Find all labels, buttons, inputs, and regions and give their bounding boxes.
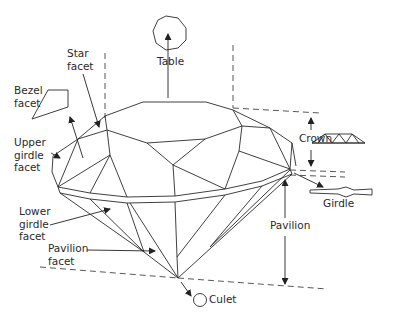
table-octagon-icon [153, 16, 186, 50]
culet-circle-icon [194, 294, 207, 307]
girdle-profile-icon [310, 187, 372, 197]
label-star-facet: Star facet [67, 47, 93, 72]
label-crown: Crown [299, 132, 332, 145]
label-upper-girdle-facet: Upper girdle facet [14, 136, 46, 174]
label-girdle: Girdle [323, 197, 354, 210]
diamond-anatomy-diagram: Star facet Table Bezel facet Upper girdl… [0, 0, 412, 322]
diagram-canvas [0, 0, 412, 322]
diamond-drawing [52, 102, 296, 278]
label-bezel-facet: Bezel facet [14, 84, 43, 109]
label-pavilion-facet: Pavilion facet [48, 242, 88, 267]
label-pavilion: Pavilion [270, 219, 310, 232]
label-culet: Culet [209, 293, 236, 306]
label-table: Table [157, 55, 184, 68]
label-lower-girdle-facet: Lower girdle facet [19, 205, 50, 243]
